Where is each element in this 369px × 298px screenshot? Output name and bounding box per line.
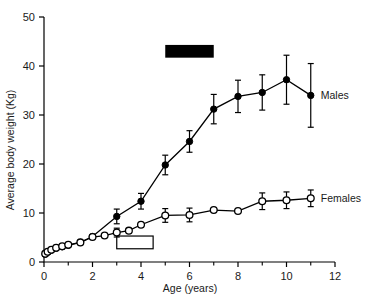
body-weight-line-chart: 01020304050 024681012 MalesFemales Avera… — [0, 0, 369, 298]
y-tick-label: 50 — [23, 11, 35, 23]
x-tick-label: 4 — [138, 270, 144, 282]
y-tick-label: 30 — [23, 109, 35, 121]
series-label-males: Males — [321, 89, 349, 101]
y-tick-label: 20 — [23, 158, 35, 170]
plot-background — [0, 0, 369, 298]
female-maturity-bar — [117, 236, 153, 249]
data-point — [307, 195, 314, 202]
data-point — [283, 77, 289, 83]
x-tick-label: 10 — [280, 270, 292, 282]
data-point — [138, 198, 144, 204]
data-point — [235, 93, 241, 99]
data-point — [235, 208, 242, 215]
data-point — [308, 92, 314, 98]
y-axis-title: Average body weight (Kg) — [4, 90, 16, 211]
data-point — [162, 162, 168, 168]
x-tick-label: 6 — [186, 270, 192, 282]
data-point — [283, 197, 290, 204]
data-point — [211, 106, 217, 112]
data-point — [77, 239, 84, 246]
data-point — [114, 213, 120, 219]
data-point — [186, 138, 192, 144]
data-point — [186, 212, 193, 219]
data-point — [259, 198, 266, 205]
x-axis-title: Age (years) — [163, 282, 217, 294]
y-tick-label: 40 — [23, 60, 35, 72]
y-tick-label: 10 — [23, 207, 35, 219]
data-point — [259, 89, 265, 95]
data-point — [65, 241, 72, 248]
x-tick-label: 2 — [89, 270, 95, 282]
data-point — [113, 229, 120, 236]
data-point — [138, 221, 145, 228]
chart-container: 01020304050 024681012 MalesFemales Avera… — [0, 0, 369, 298]
male-maturity-bar — [165, 45, 214, 58]
data-point — [89, 234, 96, 241]
y-tick-label: 0 — [29, 256, 35, 268]
x-tick-label: 0 — [41, 270, 47, 282]
x-tick-label: 12 — [329, 270, 341, 282]
data-point — [162, 212, 169, 219]
data-point — [210, 207, 217, 214]
series-label-females: Females — [321, 192, 361, 204]
data-point — [101, 232, 108, 239]
x-tick-label: 8 — [235, 270, 241, 282]
data-point — [125, 227, 132, 234]
